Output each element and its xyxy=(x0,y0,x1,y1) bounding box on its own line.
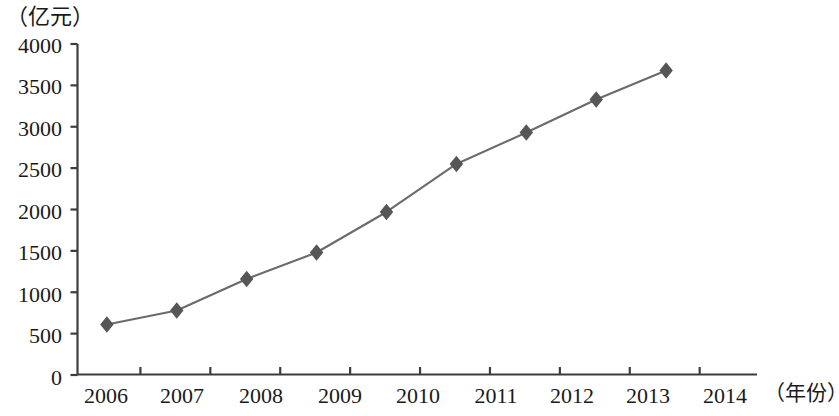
axis-lines xyxy=(77,44,757,375)
data-point-marker xyxy=(520,124,533,140)
data-point-marker xyxy=(100,316,113,332)
data-point-marker xyxy=(240,271,253,287)
data-point-marker xyxy=(589,91,602,107)
data-point-marker xyxy=(380,204,393,220)
data-point-marker xyxy=(659,62,672,78)
series-line xyxy=(107,70,666,324)
data-point-marker xyxy=(170,302,183,318)
data-point-marker xyxy=(450,156,463,172)
data-point-marker xyxy=(310,244,323,260)
